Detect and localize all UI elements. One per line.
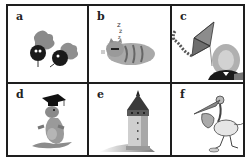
panel-label: a bbox=[16, 11, 23, 22]
panel-b: b z z z bbox=[89, 6, 172, 84]
picture-grid: a b z z z c bbox=[6, 4, 245, 157]
kangaroo-graduate-icon bbox=[24, 90, 80, 152]
tower-icon bbox=[97, 88, 163, 154]
stork-icon bbox=[186, 92, 243, 154]
panel-c: c bbox=[172, 6, 243, 84]
panel-label: d bbox=[16, 89, 24, 100]
panel-f: f bbox=[172, 84, 243, 155]
berries-with-leaves-icon bbox=[24, 28, 82, 70]
panel-d: d bbox=[8, 84, 89, 155]
panel-a: a bbox=[8, 6, 89, 84]
sleeping-cat-icon: z z z bbox=[101, 18, 159, 70]
svg-text:z: z bbox=[119, 27, 122, 34]
panel-label: f bbox=[180, 89, 185, 100]
panel-e: e bbox=[89, 84, 172, 155]
kite-and-portrait-icon bbox=[172, 16, 243, 80]
